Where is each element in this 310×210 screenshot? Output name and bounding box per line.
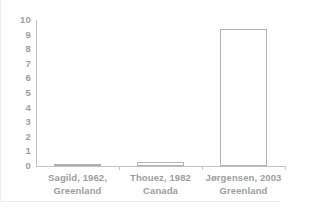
x-axis-tick-mark [119, 166, 120, 170]
x-axis-category-label: Sagild, 1962,Greenland [30, 172, 125, 197]
bar-chart-figure: 012345678910 Sagild, 1962,GreenlandThoue… [0, 0, 310, 210]
plot-area: 012345678910 [36, 20, 285, 166]
y-axis-tick-label: 8 [26, 44, 36, 54]
y-axis-tick-label: 2 [26, 132, 36, 142]
bar [220, 29, 267, 166]
y-axis-tick-label: 7 [26, 59, 36, 69]
y-axis-tick-label: 9 [26, 30, 36, 40]
bar [54, 164, 101, 167]
y-axis-tick-label: 10 [20, 15, 36, 25]
figure-border-left [0, 0, 1, 202]
x-axis-category-label-line: Sagild, 1962, [30, 172, 125, 185]
y-axis-tick-label: 6 [26, 74, 36, 84]
y-axis-tick-label: 0 [26, 161, 36, 171]
y-axis-tick-label: 4 [26, 103, 36, 113]
x-axis-category-label-line: Greenland [196, 185, 291, 198]
bar [137, 162, 184, 166]
x-axis-category-label-line: Thouez, 1982 [113, 172, 208, 185]
figure-border-bottom [0, 201, 280, 202]
x-axis-tick-mark [285, 166, 286, 170]
x-axis-line [36, 166, 285, 167]
y-axis-tick-label: 5 [26, 88, 36, 98]
x-axis-category-label: Jørgensen, 2003Greenland [196, 172, 291, 197]
x-axis-category-label: Thouez, 1982Canada [113, 172, 208, 197]
x-axis-category-label-line: Greenland [30, 185, 125, 198]
x-axis-tick-mark [202, 166, 203, 170]
x-axis-category-label-line: Canada [113, 185, 208, 198]
y-axis-tick-label: 1 [26, 147, 36, 157]
y-axis-tick-label: 3 [26, 117, 36, 127]
x-axis-category-label-line: Jørgensen, 2003 [196, 172, 291, 185]
